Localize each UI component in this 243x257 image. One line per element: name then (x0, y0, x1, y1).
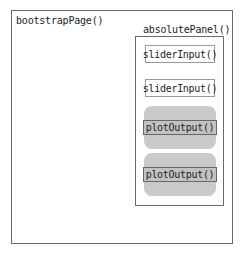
absolute-panel-label: absolutePanel() (143, 24, 230, 35)
slider-input-box-2: sliderInput() (145, 79, 215, 97)
plot-output-panel-1: plotOutput() (144, 106, 216, 149)
bootstrap-page-label: bootstrapPage() (16, 15, 103, 26)
slider-input-box-1: sliderInput() (145, 45, 215, 63)
plot-output-label-1: plotOutput() (143, 120, 218, 135)
plot-output-label-2: plotOutput() (143, 167, 218, 182)
plot-output-panel-2: plotOutput() (144, 153, 216, 196)
